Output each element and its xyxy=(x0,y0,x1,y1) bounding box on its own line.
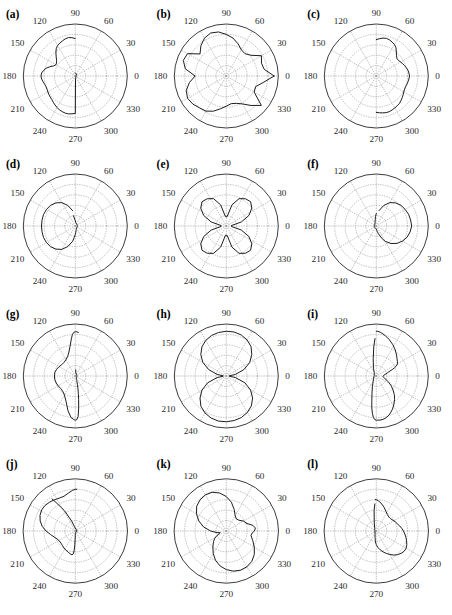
angle-tick-180: 180 xyxy=(304,71,318,81)
angle-tick-150: 150 xyxy=(161,38,175,48)
angle-tick-300: 300 xyxy=(405,126,419,136)
angle-tick-180: 180 xyxy=(304,371,318,381)
angle-tick-0: 0 xyxy=(134,71,139,81)
polar-grid-spokes xyxy=(23,324,127,428)
angle-tick-330: 330 xyxy=(427,404,441,414)
angle-tick-300: 300 xyxy=(104,426,118,436)
angle-tick-300: 300 xyxy=(104,276,118,286)
angle-tick-240: 240 xyxy=(334,126,348,136)
angle-tick-60: 60 xyxy=(405,471,415,481)
angle-tick-30: 30 xyxy=(126,188,136,198)
angle-tick-90: 90 xyxy=(71,8,81,18)
polar-chart-j: 0306090120150180210240270300330 xyxy=(0,450,151,610)
panel-b: (b) 0306090120150180210240270300330 xyxy=(151,0,302,150)
angle-tick-30: 30 xyxy=(428,493,438,503)
angle-tick-180: 180 xyxy=(2,526,16,536)
angle-tick-30: 30 xyxy=(277,38,287,48)
angle-tick-120: 120 xyxy=(183,16,197,26)
angle-tick-330: 330 xyxy=(427,104,441,114)
panel-c: (c) 0306090120150180210240270300330 xyxy=(301,0,452,150)
angle-tick-270: 270 xyxy=(68,284,82,294)
panel-label-c: (c) xyxy=(307,8,320,20)
angle-tick-0: 0 xyxy=(436,526,441,536)
angle-tick-330: 330 xyxy=(126,254,140,264)
angle-tick-120: 120 xyxy=(183,166,197,176)
angle-tick-300: 300 xyxy=(255,126,269,136)
polar-chart-i: 0306090120150180210240270300330 xyxy=(301,300,452,450)
angle-tick-210: 210 xyxy=(312,559,326,569)
angle-tick-30: 30 xyxy=(427,338,437,348)
angle-tick-60: 60 xyxy=(405,316,415,326)
angle-tick-180: 180 xyxy=(153,71,167,81)
angle-tick-270: 270 xyxy=(219,434,233,444)
polar-data-curve xyxy=(374,500,407,555)
panel-label-l: (l) xyxy=(307,458,318,470)
angle-tick-270: 270 xyxy=(68,134,82,144)
panel-k: (k) 0306090120150180210240270300330 xyxy=(151,450,302,610)
angle-tick-60: 60 xyxy=(255,166,265,176)
polar-chart-k: 0306090120150180210240270300330 xyxy=(151,450,302,610)
panel-g: (g) 0306090120150180210240270300330 xyxy=(0,300,151,450)
angle-tick-240: 240 xyxy=(334,276,348,286)
polar-data-curve xyxy=(376,38,409,113)
polar-chart-a: 0306090120150180210240270300330 xyxy=(0,0,151,150)
angle-tick-210: 210 xyxy=(312,254,326,264)
angle-tick-150: 150 xyxy=(161,493,175,503)
panel-row-3: (g) 0306090120150180210240270300330 (h) … xyxy=(0,300,452,450)
panel-h: (h) 0306090120150180210240270300330 xyxy=(151,300,302,450)
panel-label-d: (d) xyxy=(6,158,20,170)
angle-tick-0: 0 xyxy=(285,71,290,81)
angle-tick-30: 30 xyxy=(277,493,287,503)
angle-tick-150: 150 xyxy=(312,38,326,48)
angle-tick-180: 180 xyxy=(153,526,167,536)
angle-tick-330: 330 xyxy=(126,404,140,414)
panel-j: (j) 0306090120150180210240270300330 xyxy=(0,450,151,610)
angle-tick-210: 210 xyxy=(161,559,175,569)
panel-a: (a) 0306090120150180210240270300330 xyxy=(0,0,151,150)
angle-tick-60: 60 xyxy=(405,16,415,26)
angle-tick-150: 150 xyxy=(312,338,326,348)
angle-tick-270: 270 xyxy=(219,134,233,144)
angle-tick-180: 180 xyxy=(3,71,17,81)
angle-tick-60: 60 xyxy=(255,16,265,26)
panel-l: (l) 0306090120150180210240270300330 xyxy=(301,450,452,610)
angle-tick-240: 240 xyxy=(33,581,47,591)
polar-data-curve xyxy=(41,38,77,114)
angle-tick-240: 240 xyxy=(183,581,197,591)
angle-tick-210: 210 xyxy=(11,254,25,264)
polar-data-curve xyxy=(40,489,77,555)
panel-e: (e) 0306090120150180210240270300330 xyxy=(151,150,302,300)
angle-tick-90: 90 xyxy=(372,308,382,318)
panel-label-i: (i) xyxy=(307,308,318,320)
angle-tick-0: 0 xyxy=(134,371,139,381)
angle-tick-150: 150 xyxy=(312,188,326,198)
polar-grid-spokes xyxy=(174,479,278,583)
polar-grid-spokes xyxy=(23,174,127,278)
angle-tick-330: 330 xyxy=(277,404,291,414)
angle-tick-270: 270 xyxy=(370,284,384,294)
angle-tick-90: 90 xyxy=(221,8,231,18)
angle-tick-300: 300 xyxy=(405,581,419,591)
angle-tick-60: 60 xyxy=(104,471,114,481)
angle-tick-120: 120 xyxy=(33,471,47,481)
angle-tick-240: 240 xyxy=(183,426,197,436)
angle-tick-150: 150 xyxy=(161,338,175,348)
polar-chart-l: 0306090120150180210240270300330 xyxy=(301,450,452,610)
angle-tick-30: 30 xyxy=(126,338,136,348)
angle-tick-180: 180 xyxy=(304,221,318,231)
angle-tick-150: 150 xyxy=(11,38,25,48)
angle-tick-120: 120 xyxy=(334,471,348,481)
polar-chart-g: 0306090120150180210240270300330 xyxy=(0,300,151,450)
angle-tick-240: 240 xyxy=(33,276,47,286)
angle-tick-90: 90 xyxy=(372,463,382,473)
angle-tick-0: 0 xyxy=(285,221,290,231)
polar-chart-b: 0306090120150180210240270300330 xyxy=(151,0,302,150)
polar-grid-spokes xyxy=(174,324,278,428)
angle-tick-270: 270 xyxy=(370,434,384,444)
angle-tick-270: 270 xyxy=(68,589,82,599)
angle-tick-210: 210 xyxy=(312,404,326,414)
angle-tick-330: 330 xyxy=(126,104,140,114)
angle-tick-90: 90 xyxy=(372,158,382,168)
angle-tick-90: 90 xyxy=(71,158,81,168)
angle-tick-300: 300 xyxy=(104,581,118,591)
